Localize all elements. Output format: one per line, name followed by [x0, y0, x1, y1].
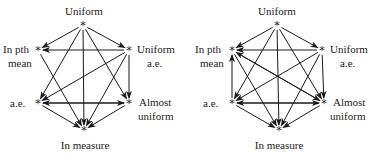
edge-uniform-to-uae	[87, 27, 124, 47]
right-node-pth-label2: mean	[200, 58, 224, 69]
edge-uniform-to-im	[277, 30, 279, 125]
right-node-uae-label2: a.e.	[340, 58, 355, 69]
left-node-au-label2: uniform	[138, 111, 173, 122]
right-node-pth-label: In pth	[195, 44, 221, 55]
right-node-im-label: In measure	[248, 140, 310, 151]
edge-pth-to-im	[40, 54, 81, 125]
node-star-im: *	[276, 124, 282, 137]
edge-pth-to-im	[235, 54, 277, 125]
right-node-uae-label: Uniform	[330, 44, 368, 55]
edges-right	[232, 27, 324, 127]
node-star-uniform: *	[274, 19, 280, 32]
edge-uniform-to-pth	[236, 27, 272, 47]
pth-line1: In pth	[3, 43, 29, 55]
edge-ae-to-im	[236, 105, 274, 127]
left-node-im-label: In measure	[54, 140, 116, 151]
edge-uniform-to-pth	[42, 27, 78, 47]
node-star-au: *	[321, 97, 327, 110]
right-node-uniform-label: Uniform	[256, 6, 298, 17]
node-star-uae: *	[319, 44, 325, 57]
edge-au-to-im	[88, 106, 124, 128]
node-star-pth: *	[229, 44, 235, 57]
edge-uniform-to-au	[280, 29, 322, 98]
node-star-uniform: *	[80, 19, 86, 32]
node-star-pth: *	[35, 44, 41, 57]
left-node-uae-label: Uniform	[137, 44, 175, 55]
edge-uniform-to-im	[83, 30, 84, 125]
right-node-ae-label: a.e.	[203, 98, 218, 109]
node-star-im: *	[81, 124, 87, 137]
diagram-canvas: ************	[0, 0, 371, 155]
left-node-uae-label2: a.e.	[147, 58, 162, 69]
left-node-pth-label2: mean	[8, 58, 32, 69]
right-node-au-label: Almost	[333, 97, 365, 108]
node-star-uae: *	[126, 44, 132, 57]
right-node-au-label2: uniform	[330, 111, 365, 122]
node-star-ae: *	[35, 97, 41, 110]
edge-au-to-im	[283, 106, 319, 128]
node-star-au: *	[126, 97, 132, 110]
left-node-pth-label: In pth	[3, 44, 29, 55]
edge-uniform-to-au	[86, 29, 127, 98]
left-node-uniform-label: Uniform	[63, 6, 105, 17]
edge-uniform-to-uae	[281, 27, 317, 47]
left-node-ae-label: a.e.	[10, 98, 25, 109]
edge-ae-to-im	[42, 106, 79, 128]
left-node-au-label: Almost	[139, 97, 171, 108]
edges-left	[40, 27, 129, 127]
node-star-ae: *	[229, 97, 235, 110]
edge-uae-to-au	[322, 55, 324, 98]
